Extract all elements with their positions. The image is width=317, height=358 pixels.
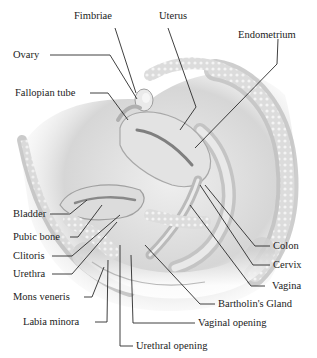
label-mons-veneris: Mons veneris bbox=[13, 291, 70, 303]
label-bladder: Bladder bbox=[13, 208, 46, 220]
label-urethral-opening: Urethral opening bbox=[136, 340, 207, 352]
label-colon: Colon bbox=[273, 240, 299, 252]
label-ovary: Ovary bbox=[13, 49, 39, 61]
label-vagina: Vagina bbox=[272, 280, 301, 292]
label-fallopian-tube: Fallopian tube bbox=[15, 87, 75, 99]
label-fimbriae: Fimbriae bbox=[74, 10, 112, 22]
label-clitoris: Clitoris bbox=[13, 250, 45, 262]
label-uterus: Uterus bbox=[159, 10, 187, 22]
label-pubic-bone: Pubic bone bbox=[13, 231, 60, 243]
label-labia-minora: Labia minora bbox=[23, 316, 79, 328]
label-endometrium: Endometrium bbox=[238, 29, 296, 41]
label-cervix: Cervix bbox=[273, 259, 302, 271]
label-urethra: Urethra bbox=[13, 268, 45, 280]
label-vaginal-opening: Vaginal opening bbox=[198, 317, 267, 329]
anatomy-diagram: Fimbriae Uterus Endometrium Ovary Fallop… bbox=[0, 0, 317, 358]
label-bartholins-gland: Bartholin's Gland bbox=[218, 298, 292, 310]
